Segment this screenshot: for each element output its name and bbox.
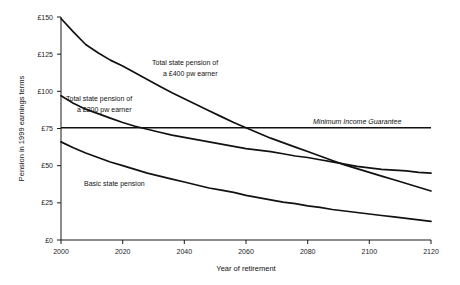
x-axis-title: Year of retirement bbox=[216, 264, 276, 273]
annotation-basic-state-pension: Basic state pension bbox=[84, 180, 145, 188]
x-tick-label-2100: 2100 bbox=[362, 248, 378, 255]
y-tick-label-25: £25 bbox=[41, 199, 53, 206]
x-tick-label-2040: 2040 bbox=[177, 248, 193, 255]
y-tick-label-0: £0 bbox=[45, 237, 53, 244]
annotation-200-line1: Total state pension of bbox=[66, 95, 132, 103]
y-tick-label-100: £100 bbox=[37, 88, 53, 95]
x-tick-label-2000: 2000 bbox=[53, 248, 69, 255]
x-tick-label-2060: 2060 bbox=[238, 248, 254, 255]
pension-projection-chart: £0 £25 £50 £75 £100 £125 £150 2000 2020 … bbox=[0, 0, 460, 285]
series-annotations: Total state pension of a £400 pw earner … bbox=[66, 59, 218, 188]
annotation-400-line2: a £400 pw earner bbox=[163, 70, 218, 78]
x-tick-label-2020: 2020 bbox=[115, 248, 131, 255]
y-tick-label-50: £50 bbox=[41, 162, 53, 169]
series-line-total-state-pension-400 bbox=[61, 18, 431, 190]
y-tick-label-125: £125 bbox=[37, 51, 53, 58]
y-axis-ticks: £0 £25 £50 £75 £100 £125 £150 bbox=[37, 14, 61, 244]
y-tick-label-150: £150 bbox=[37, 14, 53, 21]
chart-svg: £0 £25 £50 £75 £100 £125 £150 2000 2020 … bbox=[0, 0, 460, 285]
x-tick-label-2120: 2120 bbox=[423, 248, 439, 255]
y-tick-label-75: £75 bbox=[41, 125, 53, 132]
annotation-400-line1: Total state pension of bbox=[152, 59, 218, 67]
annotation-200-line2: a £200 pw earner bbox=[77, 106, 132, 114]
y-axis-title: Pension in 1999 earnings terms bbox=[17, 76, 26, 182]
x-tick-label-2080: 2080 bbox=[300, 248, 316, 255]
x-axis-ticks: 2000 2020 2040 2060 2080 2100 2120 bbox=[53, 240, 439, 255]
minimum-income-guarantee-label: Minimum Income Guarantee bbox=[313, 118, 401, 125]
